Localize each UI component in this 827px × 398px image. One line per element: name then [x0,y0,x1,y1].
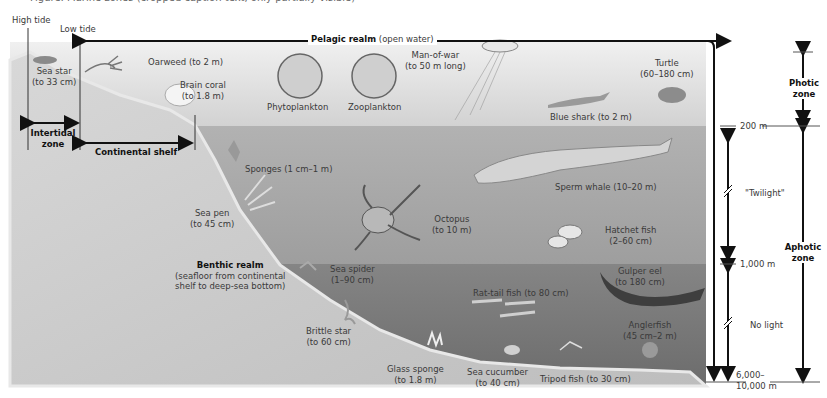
aphotic-zone-label: Aphoticzone [783,242,823,263]
sea-spider-label: Sea spider(1–90 cm) [330,264,375,285]
depth-bottom-label: 6,000–10,000 m [736,370,777,391]
sea-pen-label: Sea pen(to 45 cm) [190,208,234,229]
turtle-shape [658,87,686,103]
anglerfish-label: Anglerfish(45 cm–2 m) [623,320,677,341]
hatchet-fish-shape-2 [548,236,568,248]
twilight-label: "Twilight" [745,188,785,199]
phytoplankton-label: Phytoplankton [267,102,328,113]
no-light-label: No light [750,320,783,331]
blue-shark-label: Blue shark (to 2 m) [550,112,632,123]
octopus-body [362,207,394,233]
pelagic-realm-label: Pelagic realm (open water) [308,34,437,45]
sea-cucumber-label: Sea cucumber(to 40 cm) [467,367,528,388]
sea-star-label: Sea star(to 33 cm) [32,66,76,87]
sponges-label: Sponges (1 cm–1 m) [245,164,332,175]
hatchet-fish-label: Hatchet fish(2–60 cm) [605,225,656,246]
depth-200m-label: 200 m [740,121,767,132]
photic-zone-label: Photiczone [786,78,822,99]
low-tide-label: Low tide [60,24,96,35]
continental-shelf-label: Continental shelf [95,147,177,158]
zooplankton-circle [352,54,396,98]
depth-1000m-label: 1,000 m [740,259,775,270]
pelagic-depth-line [708,41,714,378]
benthic-realm-label: Benthic realm (seafloor from continental… [175,260,285,292]
glass-sponge-label: Glass sponge(to 1.8 m) [387,364,444,385]
oarweed-label: Oarweed (to 2 m) [148,57,223,68]
sea-cucumber-shape [504,345,520,355]
sperm-whale-label: Sperm whale (10–20 m) [555,182,657,193]
brittle-star-label: Brittle star(to 60 cm) [306,326,351,347]
intertidal-zone-label: Intertidal zone [30,128,76,149]
high-tide-label: High tide [12,15,51,26]
rat-tail-fish-label: Rat-tail fish (to 80 cm) [473,288,569,299]
brain-coral-label: Brain coral(to 1.8 m) [180,80,226,101]
sea-star-shape [33,56,57,64]
anglerfish-shape [642,342,658,358]
man-of-war-label: Man-of-war(to 50 m long) [405,50,466,71]
zooplankton-label: Zooplankton [348,102,401,113]
octopus-label: Octopus(to 10 m) [432,214,472,235]
turtle-label: Turtle(60–180 cm) [640,58,694,79]
phytoplankton-circle [278,54,322,98]
tripod-fish-label: Tripod fish (to 30 cm) [540,374,631,385]
gulper-eel-label: Gulper eel(to 180 cm) [615,266,665,287]
